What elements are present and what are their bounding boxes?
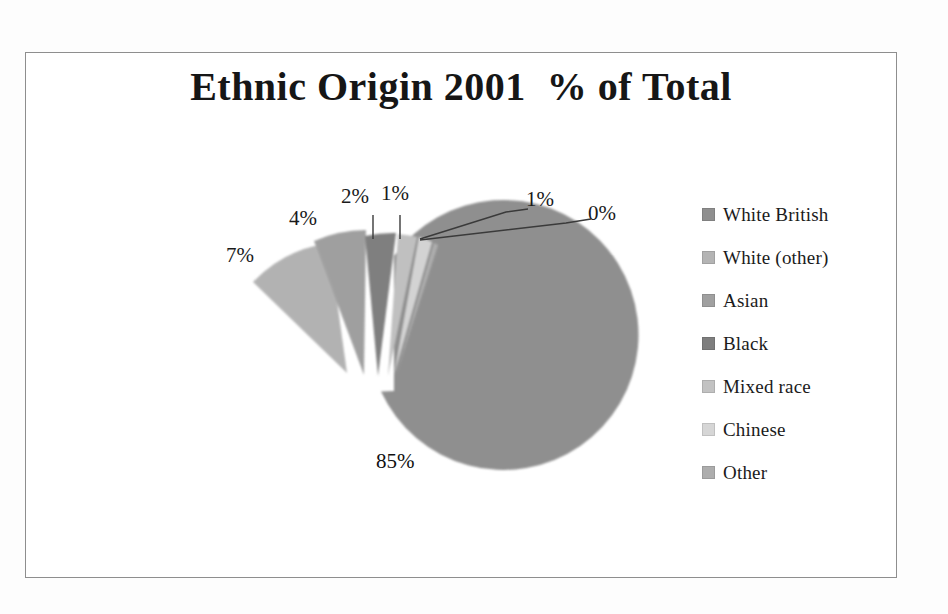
data-label-2pct: 2%: [341, 186, 369, 207]
legend-swatch-icon: [702, 423, 715, 436]
legend-label: Chinese: [723, 419, 786, 441]
legend-swatch-icon: [702, 337, 715, 350]
legend-swatch-icon: [702, 294, 715, 307]
legend-swatch-icon: [702, 208, 715, 221]
legend-label: Other: [723, 462, 767, 484]
data-label-4pct: 4%: [289, 208, 317, 229]
pie-plot-area: 7% 4% 2% 1% 1% 0% 85%: [26, 53, 686, 579]
legend-label: Mixed race: [723, 376, 811, 398]
data-label-7pct: 7%: [226, 245, 254, 266]
legend-label: Asian: [723, 290, 768, 312]
legend-item-chinese[interactable]: Chinese: [702, 408, 892, 451]
data-label-1pct-b: 1%: [526, 189, 554, 210]
legend-item-other[interactable]: Other: [702, 451, 892, 494]
legend-item-white-british[interactable]: White British: [702, 193, 892, 236]
pie-chart-svg: [26, 53, 686, 579]
data-label-0pct: 0%: [588, 203, 616, 224]
legend-label: White (other): [723, 247, 828, 269]
legend-label: Black: [723, 333, 768, 355]
legend-item-asian[interactable]: Asian: [702, 279, 892, 322]
legend-swatch-icon: [702, 251, 715, 264]
legend-item-mixed-race[interactable]: Mixed race: [702, 365, 892, 408]
legend-swatch-icon: [702, 466, 715, 479]
legend-item-white-other[interactable]: White (other): [702, 236, 892, 279]
chart-frame: Ethnic Origin 2001 % of Total: [25, 52, 897, 578]
chart-legend: White British White (other) Asian Black …: [702, 193, 892, 494]
legend-item-black[interactable]: Black: [702, 322, 892, 365]
legend-swatch-icon: [702, 380, 715, 393]
data-label-85pct: 85%: [376, 451, 415, 472]
data-label-1pct-a: 1%: [381, 183, 409, 204]
legend-label: White British: [723, 204, 829, 226]
